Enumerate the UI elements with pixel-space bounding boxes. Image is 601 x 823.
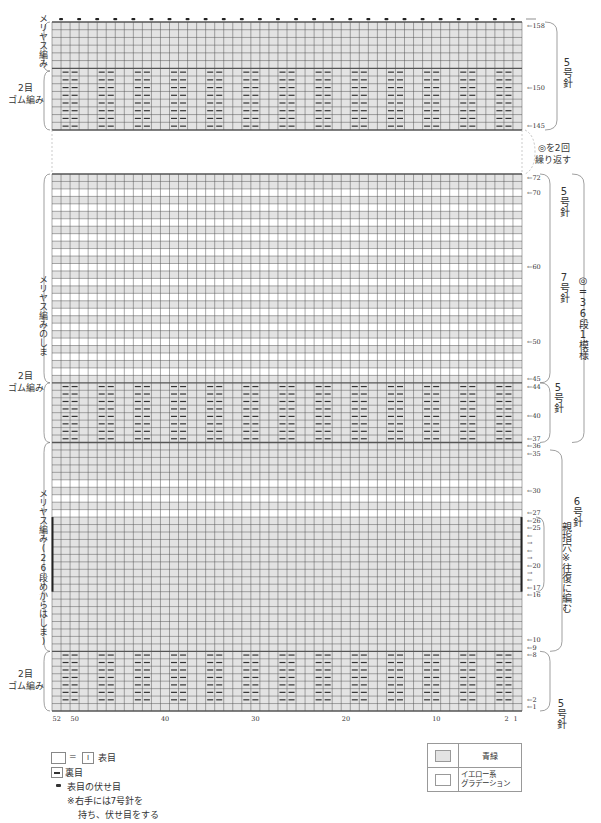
equals-sign: = (69, 751, 77, 761)
purl-swatch (51, 767, 63, 778)
row-number: ←60 (527, 263, 541, 271)
yellow-label-2: グラデーション (461, 780, 521, 789)
column-number: 40 (161, 715, 169, 723)
knitting-chart (0, 0, 601, 823)
label-top-rib-2: ゴム編み (8, 96, 44, 105)
knit-label: 表目 (98, 751, 116, 764)
needle-label-5a: 5号針 (558, 186, 569, 217)
bind-off-label: 表目の伏せ目 (67, 780, 121, 793)
note-line-2: 持ち、伏せ目をする (78, 808, 159, 821)
needle-label-top: 5号針 (561, 57, 572, 88)
repeat-label-2: 繰り返す (535, 156, 571, 165)
column-number: 30 (251, 715, 259, 723)
yellow-swatch (435, 774, 451, 786)
needle-label-6: 6号針 (571, 496, 582, 527)
needle-label-5-mid: 5号針 (552, 382, 563, 413)
row-number: ←70 (527, 189, 541, 197)
teal-label: 青緑 (459, 744, 522, 768)
knit-symbol-box: I (82, 752, 94, 764)
column-number: 1 (513, 715, 517, 723)
bind-off-icon (56, 784, 61, 787)
color-legend: 青緑 イエロー系グラデーション (427, 743, 522, 792)
purl-label: 裏目 (65, 766, 83, 779)
row-number: ←145 (527, 122, 545, 130)
needle-label-5-bot: 5号針 (555, 698, 566, 729)
column-number: 20 (342, 715, 350, 723)
label-top-rib-1: 2目 (18, 84, 33, 93)
row-number: ←40 (527, 412, 541, 420)
row-number: ←44 (527, 383, 541, 391)
label-body: メリヤス編み(26段めからはしま) (38, 489, 47, 646)
pattern-repeat-label: ◎=36段1模様 (577, 275, 588, 360)
label-stripe: メリヤス編みのしま (38, 275, 47, 356)
row-number: ←50 (527, 338, 541, 346)
row-number: ←30 (527, 487, 541, 495)
row-number: ←35 (527, 450, 541, 458)
label-top-stockinette: メリヤス編み (38, 14, 47, 68)
row-number: ←16 (527, 591, 541, 599)
label-mid-rib-2: ゴム編み (8, 384, 44, 393)
column-number: 10 (432, 715, 440, 723)
label-bot-rib-2: ゴム編み (8, 682, 44, 691)
column-number: 52 (53, 715, 61, 723)
needle-label-7: 7号針 (558, 272, 569, 303)
label-bot-rib-1: 2目 (18, 670, 33, 679)
purl-icon (54, 772, 60, 774)
column-number: 2 (504, 715, 508, 723)
label-mid-rib-1: 2目 (18, 372, 33, 381)
teal-swatch (435, 750, 451, 762)
row-direction-arrow: ← (527, 576, 532, 584)
thumb-hole-label: 親指穴※往復に編む (560, 522, 571, 613)
row-number: ←158 (527, 22, 545, 30)
knit-empty-swatch (51, 752, 66, 764)
row-number: ←72 (527, 174, 541, 182)
row-number: ←1 (527, 703, 537, 711)
row-direction-arrow: → (527, 554, 532, 562)
row-number: ←8 (527, 651, 537, 659)
column-number: 50 (71, 715, 79, 723)
note-line-1: ※右手には7号針を (67, 794, 143, 807)
row-number: ←150 (527, 84, 545, 92)
repeat-label-1: ◎を2回 (538, 144, 570, 153)
